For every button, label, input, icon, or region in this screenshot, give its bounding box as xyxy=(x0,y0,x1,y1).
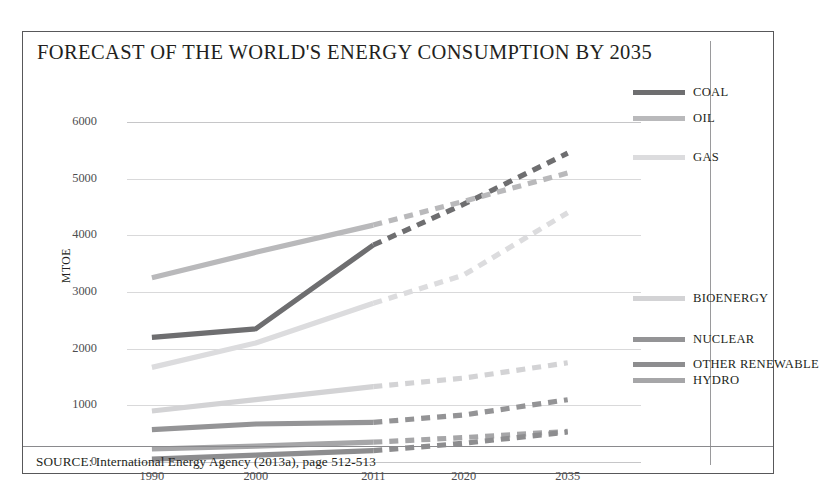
legend-swatch-icon xyxy=(633,90,685,95)
x-tick-label: 2011 xyxy=(338,469,408,484)
legend-item-coal[interactable]: COAL xyxy=(633,82,728,97)
legend-swatch-icon xyxy=(633,296,685,301)
series-line-bioenergy xyxy=(373,363,567,387)
legend-item-nuclear[interactable]: NUCLEAR xyxy=(633,329,755,344)
legend-swatch-icon xyxy=(633,378,685,383)
x-tick-label: 1990 xyxy=(117,469,187,484)
legend-item-hydro[interactable]: HYDRO xyxy=(633,370,739,385)
series-line-gas xyxy=(373,213,567,304)
legend-item-gas[interactable]: GAS xyxy=(633,147,719,162)
legend-swatch-icon xyxy=(633,155,685,160)
legend-divider xyxy=(710,41,711,465)
x-tick-label: 2035 xyxy=(533,469,603,484)
legend-item-other-renewable[interactable]: OTHER RENEWABLE xyxy=(633,354,819,369)
legend-label: BIOENERGY xyxy=(693,291,768,306)
legend-item-oil[interactable]: OIL xyxy=(633,108,715,123)
legend-label: GAS xyxy=(693,150,719,165)
legend-label: NUCLEAR xyxy=(693,332,755,347)
y-axis-label: MTOE xyxy=(60,248,73,283)
legend-swatch-icon xyxy=(633,362,685,367)
y-tick-label: 5000 xyxy=(37,171,97,186)
legend-item-bioenergy[interactable]: BIOENERGY xyxy=(633,288,768,303)
y-tick-label: 3000 xyxy=(37,284,97,299)
footer-divider xyxy=(23,446,773,447)
y-tick-label: 2000 xyxy=(37,341,97,356)
y-tick-label: 6000 xyxy=(37,114,97,129)
legend-label: HYDRO xyxy=(693,373,739,388)
legend-swatch-icon xyxy=(633,337,685,342)
legend-label: OIL xyxy=(693,111,715,126)
series-line-coal xyxy=(152,245,373,337)
chart-card: FORECAST OF THE WORLD'S ENERGY CONSUMPTI… xyxy=(22,31,774,474)
legend-swatch-icon xyxy=(633,116,685,121)
plot-area: MTOE 0100020003000400050006000 199020002… xyxy=(101,91,553,463)
source-note: SOURCE: International Energy Agency (201… xyxy=(36,454,376,470)
y-tick-label: 1000 xyxy=(37,397,97,412)
series-line-oil xyxy=(373,173,567,225)
y-tick-label: 4000 xyxy=(37,227,97,242)
series-line-nuclear xyxy=(373,400,567,423)
series-line-bioenergy xyxy=(152,387,373,411)
series-line-nuclear xyxy=(152,422,373,429)
plot-inner: 0100020003000400050006000 19902000201120… xyxy=(101,91,553,463)
x-tick-label: 2020 xyxy=(429,469,499,484)
legend-label: COAL xyxy=(693,85,728,100)
series-lines xyxy=(127,91,579,463)
x-tick-label: 2000 xyxy=(221,469,291,484)
page-title: FORECAST OF THE WORLD'S ENERGY CONSUMPTI… xyxy=(37,41,737,64)
